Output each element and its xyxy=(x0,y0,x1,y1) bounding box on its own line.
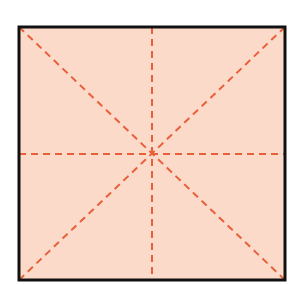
symmetry-diagram: Square with dashed lines of symmetry xyxy=(0,0,303,285)
square-symmetry-figure xyxy=(0,0,303,285)
